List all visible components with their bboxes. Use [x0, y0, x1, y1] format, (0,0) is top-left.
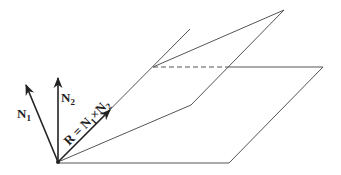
origin-point — [56, 160, 60, 164]
upper-plane — [58, 10, 284, 162]
n1-label: N1 — [17, 106, 31, 123]
upper-plane-right-edge — [191, 10, 284, 105]
lower-plane-right-edge — [229, 67, 323, 163]
n1-vector-arrow — [26, 85, 58, 162]
n2-label: N2 — [61, 90, 75, 107]
upper-plane-top-edge — [153, 10, 284, 67]
intersecting-planes-diagram: N1 N2 R = N1×N2 — [0, 0, 341, 175]
